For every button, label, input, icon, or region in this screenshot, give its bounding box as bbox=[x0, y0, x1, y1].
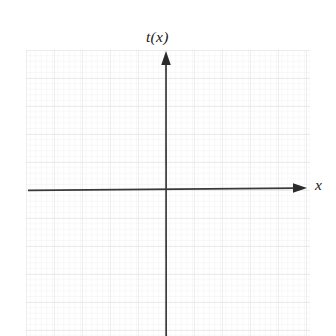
coordinate-grid-figure: t(x) x bbox=[0, 0, 336, 336]
t-of-x-axis-label: t(x) bbox=[146, 29, 169, 45]
graph-paper-grid bbox=[26, 50, 310, 336]
x-axis-label: x bbox=[315, 177, 322, 193]
coordinate-plane-svg bbox=[0, 0, 336, 336]
